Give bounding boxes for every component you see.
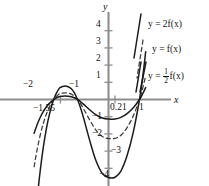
y-tick-label-4: 4	[96, 20, 101, 30]
one-half-fraction: 12	[163, 68, 169, 84]
annotation-local-min-x: 0.21	[110, 103, 127, 113]
curves-group	[34, 52, 146, 186]
leader-2f	[134, 14, 141, 58]
legend-label-half-f: y = 12f(x)	[148, 68, 184, 84]
legend-half-f-suffix: f(x)	[170, 71, 184, 81]
y-tick-label-3: 3	[96, 37, 101, 47]
y-tick-label-neg4: −4	[99, 170, 109, 180]
legend-label-f: y = f(x)	[152, 45, 181, 55]
curve-2f	[34, 52, 146, 186]
x-tick-label-neg1: −1	[69, 80, 79, 90]
fraction-numerator: 1	[163, 68, 169, 76]
y-tick-label-neg1: −1	[92, 112, 102, 122]
x-tick-label-neg2: −2	[23, 80, 33, 90]
y-tick-label-neg2: −2	[92, 129, 102, 139]
curve-f	[34, 76, 146, 167]
y-tick-label-neg3: −3	[111, 146, 121, 156]
axes-group	[0, 12, 171, 186]
y-axis-label: y	[103, 2, 107, 12]
function-graph-figure: y x 4 3 2 1 −1 −2 −3 −4 −2 −1 1 −1.55 0.…	[0, 0, 209, 186]
annotation-local-max-x: −1.55	[33, 104, 55, 114]
x-axis-label: x	[174, 95, 178, 105]
fraction-denominator: 2	[163, 76, 169, 85]
y-tick-label-1: 1	[96, 71, 101, 81]
legend-half-f-prefix: y =	[148, 71, 163, 81]
y-tick-label-2: 2	[96, 54, 101, 64]
x-tick-label-1: 1	[139, 103, 144, 113]
legend-label-2f: y = 2f(x)	[148, 20, 182, 30]
